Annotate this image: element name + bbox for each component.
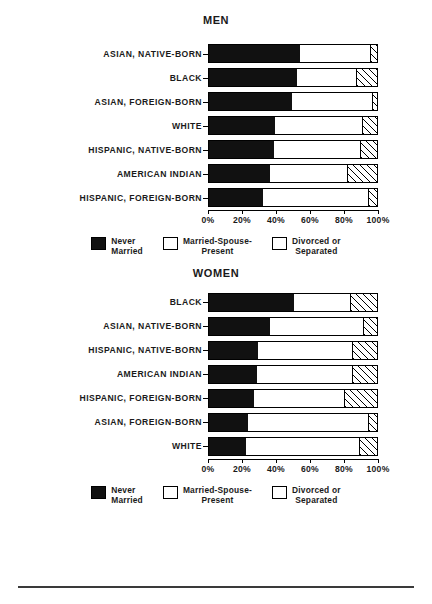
legend-label-line1: Married-Spouse-	[183, 485, 252, 495]
bar-row: WHITE	[0, 114, 432, 138]
legend-swatch-married	[163, 237, 178, 250]
axis-tick	[276, 459, 277, 463]
stacked-bar	[208, 92, 378, 111]
axis-tick-label: 100%	[366, 215, 389, 225]
bar-segment-married-spouse-present	[300, 45, 370, 62]
category-label: HISPANIC, FOREIGN-BORN	[80, 194, 202, 203]
legend-label-line2: Present	[183, 246, 252, 256]
axis-tick-label: 20%	[233, 215, 251, 225]
legend-item: Divorced orSeparated	[272, 236, 341, 257]
stacked-bar	[208, 413, 378, 432]
bar-row: AMERICAN INDIAN	[0, 162, 432, 186]
axis-tick	[344, 459, 345, 463]
bar-segment-never-married	[209, 141, 274, 158]
bar-segment-married-spouse-present	[257, 366, 352, 383]
legend-label-line1: Never	[111, 236, 143, 246]
bar-segment-never-married	[209, 390, 254, 407]
bar-segment-married-spouse-present	[248, 414, 368, 431]
panel-women: WOMEN BLACKASIAN, NATIVE-BORNHISPANIC, N…	[0, 257, 432, 506]
axis-line	[208, 210, 378, 211]
legend-item: NeverMarried	[91, 236, 143, 257]
bar-segment-divorced-separated	[372, 93, 378, 110]
axis-tick-label: 40%	[267, 464, 285, 474]
legend-label-line2: Present	[183, 495, 252, 505]
axis-tick	[378, 459, 379, 463]
bar-segment-divorced-separated	[352, 342, 378, 359]
axis-tick-label: 20%	[233, 464, 251, 474]
bar-segment-never-married	[209, 45, 300, 62]
bar-segment-married-spouse-present	[297, 69, 356, 86]
bar-segment-never-married	[209, 342, 258, 359]
legend-label: Married-Spouse-Present	[183, 485, 252, 506]
bar-segment-married-spouse-present	[294, 294, 350, 311]
axis-tick-label: 80%	[335, 464, 353, 474]
bar-row: HISPANIC, FOREIGN-BORN	[0, 387, 432, 411]
axis-tick	[310, 210, 311, 214]
bar-segment-married-spouse-present	[270, 318, 363, 335]
axis-tick	[310, 459, 311, 463]
legend-label-line1: Divorced or	[292, 236, 341, 246]
bar-row: HISPANIC, NATIVE-BORN	[0, 339, 432, 363]
legend-label-line2: Married	[111, 495, 143, 505]
bar-segment-never-married	[209, 93, 292, 110]
bar-segment-never-married	[209, 438, 246, 455]
bar-row: WHITE	[0, 435, 432, 459]
axis-tick	[242, 459, 243, 463]
legend-item: Married-Spouse-Present	[163, 236, 252, 257]
stacked-bar	[208, 164, 378, 183]
legend-label: Divorced orSeparated	[292, 236, 341, 257]
bar-segment-divorced-separated	[347, 165, 378, 182]
stacked-bar	[208, 341, 378, 360]
axis-tick	[276, 210, 277, 214]
stacked-bar	[208, 188, 378, 207]
bar-row: ASIAN, FOREIGN-BORN	[0, 90, 432, 114]
bar-segment-divorced-separated	[368, 189, 378, 206]
stacked-bar	[208, 437, 378, 456]
legend-label: Married-Spouse-Present	[183, 236, 252, 257]
chart-women: BLACKASIAN, NATIVE-BORNHISPANIC, NATIVE-…	[0, 291, 432, 479]
axis-tick	[242, 210, 243, 214]
legend-swatch-divorced	[272, 237, 287, 250]
bar-row: BLACK	[0, 291, 432, 315]
axis-tick-label: 100%	[366, 464, 389, 474]
category-label: ASIAN, FOREIGN-BORN	[95, 98, 202, 107]
axis-tick-label: 60%	[301, 464, 319, 474]
legend-label: Divorced orSeparated	[292, 485, 341, 506]
bar-row: HISPANIC, FOREIGN-BORN	[0, 186, 432, 210]
bar-segment-never-married	[209, 294, 294, 311]
legend-swatch-married	[163, 486, 178, 499]
bar-segment-married-spouse-present	[275, 117, 362, 134]
axis-tick-label: 80%	[335, 215, 353, 225]
bar-rows-men: ASIAN, NATIVE-BORNBLACKASIAN, FOREIGN-BO…	[0, 42, 432, 210]
bar-segment-divorced-separated	[344, 390, 378, 407]
category-label: ASIAN, FOREIGN-BORN	[95, 418, 202, 427]
bar-row: BLACK	[0, 66, 432, 90]
category-label: WHITE	[172, 442, 202, 451]
axis-tick-label: 0%	[201, 215, 214, 225]
stacked-bar	[208, 140, 378, 159]
bar-segment-divorced-separated	[360, 141, 378, 158]
stacked-bar	[208, 317, 378, 336]
legend-label-line2: Separated	[292, 246, 341, 256]
legend-label-line2: Married	[111, 246, 143, 256]
bar-segment-married-spouse-present	[263, 189, 368, 206]
chart-title-men: MEN	[0, 14, 432, 26]
stacked-bar	[208, 389, 378, 408]
bar-segment-married-spouse-present	[270, 165, 347, 182]
axis-tick	[378, 210, 379, 214]
bar-segment-never-married	[209, 117, 275, 134]
chart-title-women: WOMEN	[0, 267, 432, 279]
panel-men: MEN ASIAN, NATIVE-BORNBLACKASIAN, FOREIG…	[0, 0, 432, 257]
x-axis-men: 0%20%40%60%80%100%	[0, 210, 432, 230]
bar-row: ASIAN, FOREIGN-BORN	[0, 411, 432, 435]
bar-segment-married-spouse-present	[254, 390, 344, 407]
legend-label-line1: Married-Spouse-	[183, 236, 252, 246]
bar-row: HISPANIC, NATIVE-BORN	[0, 138, 432, 162]
bar-row: AMERICAN INDIAN	[0, 363, 432, 387]
axis-tick-label: 40%	[267, 215, 285, 225]
bar-segment-divorced-separated	[359, 438, 378, 455]
category-label: AMERICAN INDIAN	[117, 170, 202, 179]
legend-swatch-divorced	[272, 486, 287, 499]
stacked-bar	[208, 293, 378, 312]
stacked-bar	[208, 116, 378, 135]
